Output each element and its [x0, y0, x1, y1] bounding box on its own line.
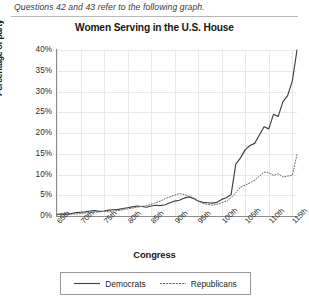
legend-swatch-solid [74, 280, 100, 287]
legend-label-republicans: Republicans [191, 279, 237, 289]
x-axis-title: Congress [0, 249, 309, 260]
legend-label-democrats: Democrats [105, 279, 146, 289]
y-tick-label: 30% [0, 88, 52, 96]
y-tick-label: 15% [0, 150, 52, 158]
legend-swatch-dotted [160, 280, 186, 287]
y-tick-label: 20% [0, 129, 52, 137]
chart-title: Women Serving in the U.S. House [0, 22, 309, 33]
y-tick-label: 40% [0, 46, 52, 54]
y-tick-label: 5% [0, 191, 52, 199]
y-axis-title: Percentage of party [0, 20, 4, 96]
y-tick-label: 35% [0, 67, 52, 75]
legend-item-democrats: Democrats [74, 279, 146, 289]
y-tick-label: 0% [0, 212, 52, 220]
question-header: Questions 42 and 43 refer to the followi… [14, 2, 296, 13]
legend-item-republicans: Republicans [160, 279, 237, 289]
header-divider [11, 16, 298, 17]
plot-area [57, 50, 297, 216]
series-line-democrats [57, 50, 297, 214]
series-line-republicans [57, 155, 297, 215]
y-tick-label: 10% [0, 171, 52, 179]
data-lines [57, 50, 297, 216]
chart-page: Questions 42 and 43 refer to the followi… [0, 0, 309, 301]
y-tick-label: 25% [0, 108, 52, 116]
chart-legend: Democrats Republicans [60, 272, 251, 295]
